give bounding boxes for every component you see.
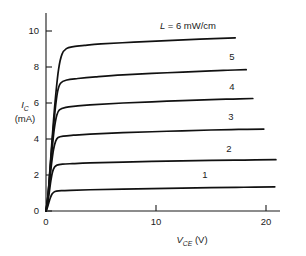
data-curves	[46, 38, 276, 211]
curve-1	[46, 187, 275, 211]
curve-label-1: 1	[202, 169, 207, 180]
curve-label-4: 4	[229, 81, 234, 92]
curve-6	[46, 38, 235, 211]
x-axis-title-text: VCE (V)	[176, 234, 207, 247]
x-axis-title-sub: CE	[183, 240, 193, 247]
y-tick-label-4: 4	[34, 133, 39, 144]
curve-label-top-annotation: L = 6 mW/cm	[160, 20, 216, 31]
chart-figure: 0246810 01020 12345L = 6 mW/cm IC (mA) V…	[0, 0, 306, 256]
y-tick-label-6: 6	[34, 97, 39, 108]
axis-lines	[46, 13, 280, 211]
y-axis-title-symbol: IC	[21, 99, 29, 112]
curve-2	[46, 160, 276, 211]
y-tick-label-2: 2	[34, 169, 39, 180]
y-tick-label-8: 8	[34, 61, 39, 72]
annotation-rest: = 6 mW/cm	[168, 20, 216, 31]
y-axis-title: IC (mA)	[15, 99, 36, 124]
x-axis-ticks	[156, 205, 266, 211]
x-axis-tick-labels: 01020	[43, 216, 271, 227]
characteristic-curves-plot: 0246810 01020 12345L = 6 mW/cm IC (mA) V…	[0, 0, 306, 256]
x-axis-title-unit-text: (V)	[195, 234, 208, 245]
y-tick-label-10: 10	[28, 25, 39, 36]
annotation-symbol: L	[160, 20, 168, 31]
y-axis-title-unit: (mA)	[15, 113, 36, 124]
curve-label-3: 3	[228, 111, 233, 122]
x-tick-label-20: 20	[261, 216, 272, 227]
x-axis-title: VCE (V)	[176, 234, 207, 247]
curve-label-5: 5	[229, 51, 234, 62]
x-tick-label-0: 0	[43, 216, 48, 227]
curve-4	[46, 99, 253, 212]
x-tick-label-10: 10	[151, 216, 162, 227]
curve-3	[46, 129, 264, 211]
y-tick-label-0: 0	[34, 205, 39, 216]
curve-label-2: 2	[226, 143, 231, 154]
y-axis-title-sub: C	[24, 105, 29, 112]
